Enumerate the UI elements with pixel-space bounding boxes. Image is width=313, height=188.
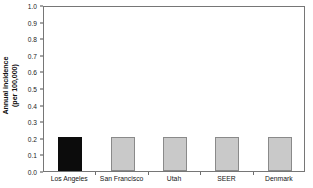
y-axis-title-text: Annual incidence (per 100,000)	[2, 57, 19, 115]
y-axis-tick-mark	[40, 55, 43, 56]
y-axis-title-line1: Annual incidence	[1, 57, 10, 115]
y-axis-tick-label: 0.5	[28, 86, 37, 93]
x-axis-category-label: Los Angeles	[51, 175, 88, 182]
bar-san-francisco	[111, 137, 135, 171]
y-axis-tick-label: 0.3	[28, 119, 37, 126]
y-axis-tick-label: 0.0	[28, 169, 37, 176]
y-axis-tick-mark	[40, 39, 43, 40]
y-axis-tick-label: 0.1	[28, 152, 37, 159]
y-axis-tick-mark	[40, 89, 43, 90]
y-axis-tick-label: 1.0	[28, 3, 37, 10]
y-axis-title: Annual incidence (per 100,000)	[0, 0, 22, 172]
bar-seer	[215, 137, 239, 171]
x-axis-category-label: San Francisco	[100, 175, 143, 182]
y-axis-tick-mark	[40, 6, 43, 7]
y-axis-tick-labels: 0.00.10.20.30.40.50.60.70.80.91.0	[20, 0, 40, 188]
x-axis-category-label: Denmark	[265, 175, 293, 182]
x-axis-tick-mark	[200, 172, 201, 175]
plot-area	[43, 6, 305, 172]
bar-denmark	[268, 137, 292, 171]
y-axis-tick-mark	[40, 105, 43, 106]
bar-chart-figure: Annual incidence (per 100,000) 0.00.10.2…	[0, 0, 313, 188]
y-axis-tick-label: 0.6	[28, 69, 37, 76]
x-axis-category-label: Utah	[167, 175, 181, 182]
y-axis-tick-mark	[40, 72, 43, 73]
x-axis-tick-mark	[95, 172, 96, 175]
bar-los-angeles	[58, 137, 82, 171]
y-axis-tick-label: 0.7	[28, 52, 37, 59]
y-axis-tick-label: 0.9	[28, 19, 37, 26]
bar-utah	[163, 137, 187, 171]
y-axis-tick-label: 0.8	[28, 36, 37, 43]
y-axis-tick-label: 0.4	[28, 102, 37, 109]
y-axis-title-line2: (per 100,000)	[11, 57, 20, 115]
y-axis-tick-mark	[40, 155, 43, 156]
y-axis-tick-mark	[40, 22, 43, 23]
x-axis-tick-mark	[253, 172, 254, 175]
y-axis-tick-mark	[40, 138, 43, 139]
x-axis-tick-mark	[148, 172, 149, 175]
x-axis-category-label: SEER	[217, 175, 236, 182]
y-axis-tick-mark	[40, 122, 43, 123]
y-axis-tick-label: 0.2	[28, 135, 37, 142]
y-axis-tick-mark	[40, 172, 43, 173]
